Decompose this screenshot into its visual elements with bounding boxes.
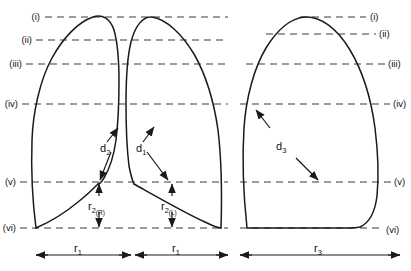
reference-label-iv-left: (iv) <box>5 98 18 109</box>
single-lung-outline <box>243 17 378 228</box>
reference-label-i-right: (i) <box>370 11 378 22</box>
d1-lower-arrow <box>147 152 168 180</box>
d2-label: d2 <box>100 142 110 157</box>
reference-lines-right-panel <box>240 17 391 228</box>
reference-label-vi-right: (vi) <box>386 224 399 235</box>
reference-label-iv-right: (iv) <box>393 98 406 109</box>
reference-label-vi-left: (vi) <box>3 222 16 233</box>
reference-label-ii-right: (ii) <box>379 28 390 39</box>
left-lung-outline <box>126 17 221 228</box>
reference-label-iii-right: (iii) <box>388 58 401 69</box>
lung-measurement-figure: (i) (ii) (iii) (iv) (v) (vi) d2 <box>0 0 411 271</box>
reference-lines-left-panel <box>20 17 228 228</box>
d1-label: d1 <box>136 142 146 157</box>
d3-leader <box>256 110 318 180</box>
d3-label: d3 <box>276 140 286 155</box>
reference-label-ii-left: (ii) <box>21 34 32 45</box>
figure-canvas: (i) (ii) (iii) (iv) (v) (vi) d2 <box>0 0 411 271</box>
reference-label-v-right: (v) <box>394 176 405 187</box>
reference-labels-left-panel: (i) (ii) (iii) (iv) (v) (vi) <box>3 11 40 233</box>
d3-lower-arrow <box>296 158 318 180</box>
reference-label-i-left: (i) <box>32 11 40 22</box>
d1-leader <box>143 127 168 180</box>
reference-label-iii-left: (iii) <box>9 58 22 69</box>
d3-upper-arrow <box>256 110 270 128</box>
left-lung-diaphragm <box>134 184 221 228</box>
right-lung-outline <box>32 16 119 228</box>
r2R-label: r2(R) <box>88 200 105 217</box>
reference-label-v-left: (v) <box>5 176 16 187</box>
d1-upper-arrow <box>143 127 154 142</box>
